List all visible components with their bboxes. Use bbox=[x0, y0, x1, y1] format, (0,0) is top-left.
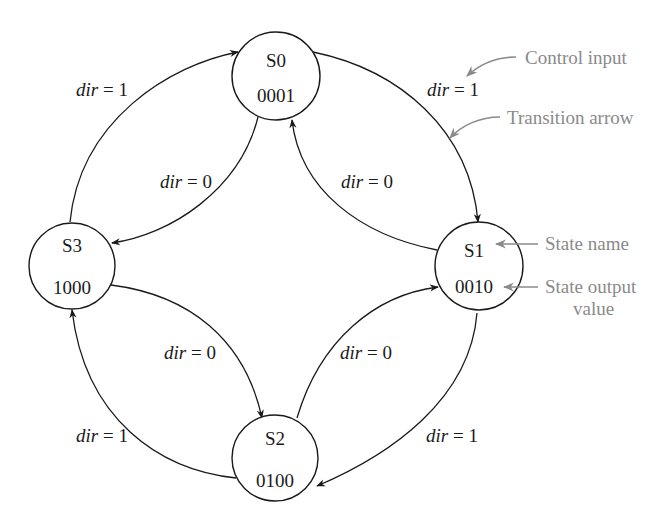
svg-text:Transition arrow: Transition arrow bbox=[507, 107, 634, 128]
state-name-s2: S2 bbox=[265, 428, 285, 449]
state-diagram: S0 0001 S1 0010 S2 0100 S3 1000 dir = 1 … bbox=[0, 0, 668, 532]
label-s1-to-s2: dir = 1 bbox=[426, 425, 478, 446]
annotation-control-input: Control input bbox=[467, 47, 628, 76]
label-s2-to-s1: dir = 0 bbox=[340, 342, 392, 363]
state-s3: S3 1000 bbox=[29, 223, 115, 309]
transition-s0-to-s1 bbox=[313, 52, 478, 222]
state-output-s0: 0001 bbox=[257, 85, 295, 106]
label-s0-to-s3: dir = 0 bbox=[160, 171, 212, 192]
label-s3-to-s0: dir = 1 bbox=[76, 79, 128, 100]
state-name-s3: S3 bbox=[62, 235, 82, 256]
transition-s2-to-s3 bbox=[72, 310, 236, 478]
annotation-transition-arrow: Transition arrow bbox=[450, 107, 634, 138]
svg-text:State name: State name bbox=[545, 233, 629, 254]
label-s1-to-s0: dir = 0 bbox=[341, 171, 393, 192]
label-s0-to-s1: dir = 1 bbox=[427, 79, 479, 100]
state-s0: S0 0001 bbox=[232, 32, 320, 120]
svg-text:value: value bbox=[573, 298, 614, 319]
state-name-s1: S1 bbox=[464, 240, 484, 261]
state-output-s3: 1000 bbox=[53, 277, 91, 298]
state-s1: S1 0010 bbox=[435, 222, 523, 310]
state-output-s1: 0010 bbox=[455, 276, 493, 297]
annotation-state-output: State output value bbox=[504, 276, 637, 319]
svg-text:State output: State output bbox=[545, 276, 637, 297]
state-name-s0: S0 bbox=[266, 50, 286, 71]
state-s2: S2 0100 bbox=[232, 415, 318, 501]
state-output-s2: 0100 bbox=[256, 470, 294, 491]
label-s2-to-s3: dir = 1 bbox=[76, 425, 128, 446]
transition-s3-to-s0 bbox=[70, 52, 238, 222]
annotation-arrow-icon bbox=[450, 117, 500, 138]
transition-s1-to-s2 bbox=[317, 313, 477, 486]
label-s3-to-s2: dir = 0 bbox=[164, 342, 216, 363]
svg-text:Control input: Control input bbox=[525, 47, 628, 68]
annotation-arrow-icon bbox=[467, 57, 516, 76]
